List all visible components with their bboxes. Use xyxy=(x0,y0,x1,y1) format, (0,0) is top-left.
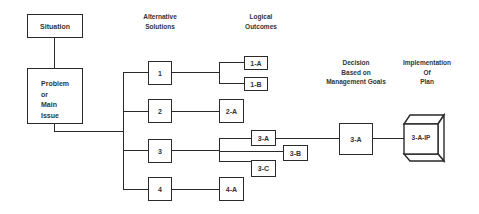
implementation-cube-icon xyxy=(0,0,479,214)
implementation-label: 3-A-IP xyxy=(406,134,436,141)
